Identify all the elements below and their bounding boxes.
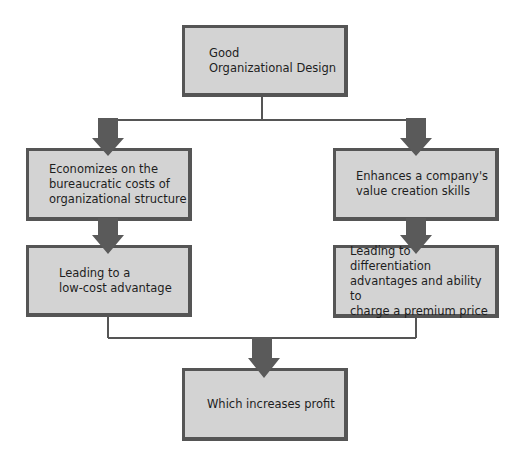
arrow-down-icon — [400, 218, 432, 254]
arrow-down-icon — [248, 337, 280, 378]
arrow-down-icon — [92, 118, 124, 156]
arrow-layer — [0, 0, 524, 458]
arrow-down-icon — [400, 118, 432, 156]
arrow-down-icon — [92, 218, 124, 254]
